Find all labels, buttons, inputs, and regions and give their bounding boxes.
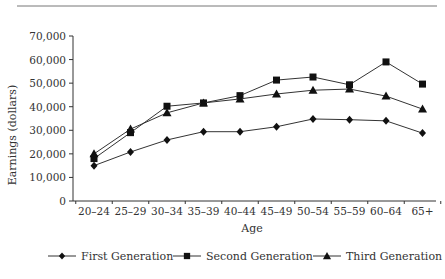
x-tick-label: 25–29	[115, 205, 147, 217]
y-tick-label: 0	[59, 195, 66, 207]
x-axis-title: Age	[240, 222, 263, 235]
diamond-marker	[310, 115, 317, 123]
square-marker	[273, 77, 280, 84]
square-marker	[184, 253, 190, 259]
diamond-marker	[164, 136, 171, 144]
x-tick-label: 20–24	[78, 205, 110, 217]
y-tick-label: 60,000	[29, 54, 66, 66]
x-tick-label: 30–34	[151, 205, 183, 217]
diamond-marker	[273, 123, 280, 131]
y-tick-label: 40,000	[29, 101, 66, 113]
x-tick-label: 50–54	[297, 205, 329, 217]
line-chart: 010,00020,00030,00040,00050,00060,00070,…	[0, 0, 445, 279]
triangle-marker	[418, 105, 427, 113]
legend-item: First Generation	[48, 250, 173, 263]
series-group	[90, 58, 428, 169]
diamond-marker	[419, 129, 426, 137]
triangle-marker	[90, 149, 99, 157]
y-tick-label: 50,000	[29, 77, 66, 89]
square-marker	[383, 58, 390, 65]
x-tick-label: 35–39	[188, 205, 220, 217]
diamond-marker	[91, 162, 98, 170]
x-axis: 20–2425–2930–3435–3940–4445–4950–5455–59…	[73, 201, 441, 217]
y-tick-label: 20,000	[29, 148, 66, 160]
legend-label: Third Generation	[346, 250, 442, 263]
x-tick-label: 45–49	[261, 205, 293, 217]
diamond-marker	[383, 117, 390, 125]
square-marker	[419, 81, 426, 88]
x-tick-label: 40–44	[224, 205, 256, 217]
triangle-marker	[126, 125, 135, 133]
legend-item: Third Generation	[313, 250, 442, 263]
square-marker	[310, 74, 317, 81]
series-first-generation	[91, 115, 427, 170]
legend-item: Second Generation	[173, 250, 313, 263]
series-second-generation	[91, 58, 427, 162]
diamond-marker	[59, 252, 65, 259]
y-axis: 010,00020,00030,00040,00050,00060,00070,…	[29, 30, 73, 207]
x-tick-label: 60–64	[370, 205, 402, 217]
legend: First GenerationSecond GenerationThird G…	[48, 250, 442, 263]
legend-label: Second Generation	[206, 250, 313, 263]
x-tick-label: 55–59	[334, 205, 366, 217]
x-tick-label: 65+	[411, 205, 433, 217]
diamond-marker	[237, 128, 244, 136]
diamond-marker	[346, 116, 353, 124]
legend-label: First Generation	[81, 250, 173, 263]
y-tick-label: 30,000	[29, 124, 66, 136]
y-axis-title: Earnings (dollars)	[6, 85, 19, 185]
y-tick-label: 70,000	[29, 30, 66, 42]
diamond-marker	[127, 148, 134, 156]
diamond-marker	[200, 128, 207, 136]
y-tick-label: 10,000	[29, 171, 66, 183]
